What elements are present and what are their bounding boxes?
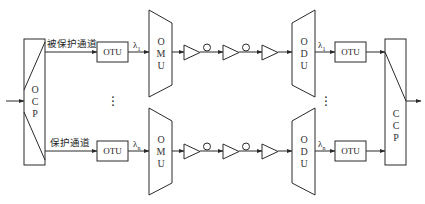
lambda1-rx-label: λ1 — [318, 40, 325, 52]
lambdan-tx-label: λn — [133, 139, 140, 151]
otu-tx-bottom-label: OTU — [97, 146, 128, 156]
lambdan-rx-label: λn — [318, 139, 325, 151]
protection-channel-label: 保护通道 — [50, 138, 90, 148]
otu-rx-top-label: OTU — [335, 47, 366, 57]
otu-tx-top-label: OTU — [97, 47, 128, 57]
odu-top-label: ODU — [297, 36, 311, 72]
ellipsis-rx: ··· — [324, 96, 328, 108]
ocp-label: O C P — [29, 84, 41, 120]
amplifier-icon — [184, 144, 200, 159]
omu-bottom-label: OMU — [154, 134, 168, 170]
fiber-spool-icon — [243, 44, 250, 51]
fiber-spool-icon — [204, 44, 211, 51]
amplifier-icon — [223, 45, 239, 60]
amplifier-icon — [184, 45, 200, 60]
ccp-label: CCP — [390, 108, 402, 144]
amplifier-icon — [262, 144, 278, 159]
protected-channel-label: 被保护通道 — [47, 39, 97, 49]
ellipsis-tx: ··· — [111, 96, 115, 108]
amplifier-icon — [262, 45, 278, 60]
omu-top-label: OMU — [154, 36, 168, 72]
ccp-box — [385, 39, 406, 165]
otu-rx-bottom-label: OTU — [335, 146, 366, 156]
fiber-spool-icon — [204, 143, 211, 150]
lambda1-tx-label: λ1 — [133, 40, 140, 52]
odu-bottom-label: ODU — [297, 134, 311, 170]
amplifier-icon — [223, 144, 239, 159]
diagram-canvas — [0, 0, 425, 204]
fiber-spool-icon — [243, 143, 250, 150]
